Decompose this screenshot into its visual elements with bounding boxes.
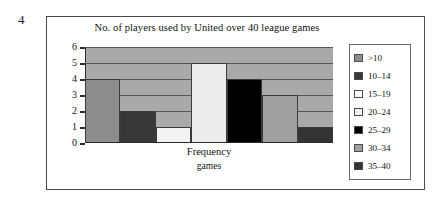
- y-axis-tick: [80, 143, 85, 145]
- question-number: 4: [18, 12, 25, 28]
- y-axis-tick-label: 1: [72, 122, 77, 132]
- legend-item: >10: [354, 49, 410, 67]
- bar: [85, 47, 120, 143]
- bar: [262, 47, 297, 143]
- legend-item-label: 25–29: [368, 125, 391, 135]
- legend-item-label: >10: [368, 53, 382, 63]
- y-axis-tick-label: 5: [72, 58, 77, 68]
- bar-fill: [227, 79, 262, 143]
- legend-item: 15–19: [354, 85, 410, 103]
- legend-item-label: 15–19: [368, 89, 391, 99]
- legend-item: 20–24: [354, 103, 410, 121]
- chart-title: No. of players used by United over 40 le…: [62, 22, 352, 33]
- figure-root: 4 No. of players used by United over 40 …: [0, 0, 448, 213]
- legend-swatch: [354, 90, 363, 98]
- y-axis-tick-label: 2: [72, 106, 77, 116]
- x-axis-line: [85, 142, 333, 144]
- bar-fill: [191, 63, 226, 143]
- y-axis-tick-label: 0: [72, 138, 77, 148]
- y-axis-tick-label: 3: [72, 90, 77, 100]
- bar: [156, 47, 191, 143]
- bar-series: [85, 47, 333, 143]
- legend-item-label: 10–14: [368, 71, 391, 81]
- legend-swatch: [354, 126, 363, 134]
- x-axis-subtitle: games: [85, 161, 333, 171]
- y-axis-tick-label: 6: [72, 42, 77, 52]
- y-axis-tick-label: 4: [72, 74, 77, 84]
- legend-item: 10–14: [354, 67, 410, 85]
- legend-item: 35–40: [354, 157, 410, 175]
- bar: [191, 47, 226, 143]
- legend-swatch: [354, 144, 363, 152]
- legend-item-label: 35–40: [368, 161, 391, 171]
- bar-fill: [262, 95, 297, 143]
- legend-box: >1010–1415–1920–2425–2930–3435–40: [349, 44, 411, 180]
- bar: [120, 47, 155, 143]
- legend-item-label: 20–24: [368, 107, 391, 117]
- legend-swatch: [354, 108, 363, 116]
- x-axis-title: Frequency: [85, 146, 333, 157]
- legend-item-label: 30–34: [368, 143, 391, 153]
- plot-area: 6543210: [85, 47, 333, 143]
- legend-swatch: [354, 72, 363, 80]
- bar: [298, 47, 333, 143]
- legend-item: 25–29: [354, 121, 410, 139]
- legend-swatch: [354, 54, 363, 62]
- bar: [227, 47, 262, 143]
- bar-fill: [85, 79, 120, 143]
- legend-swatch: [354, 162, 363, 170]
- bar-fill: [120, 111, 155, 143]
- legend-item: 30–34: [354, 139, 410, 157]
